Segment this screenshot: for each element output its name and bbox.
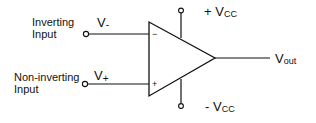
noninverting-label-line1: Non-inverting	[14, 71, 79, 83]
inverting-label-line1: Inverting	[32, 16, 74, 28]
inverting-sign: −	[152, 29, 157, 39]
positive-supply-label: + VCC	[186, 4, 248, 20]
negative-supply-label: - VCC	[187, 99, 246, 115]
negative-supply-terminal	[179, 104, 184, 109]
output-label: Vout	[275, 51, 297, 66]
noninverting-label-line2: Input	[14, 83, 38, 95]
op-amp-triangle	[149, 22, 215, 96]
inverting-label-line2: Input	[32, 28, 56, 40]
noninverting-sign: +	[152, 79, 157, 89]
inverting-input-terminal	[83, 31, 88, 36]
noninverting-input-terminal	[82, 81, 87, 86]
op-amp-diagram: − + Inverting Input V- Non-inverting Inp…	[0, 0, 316, 123]
positive-supply-terminal	[179, 8, 184, 13]
v-plus-label: V+	[94, 68, 109, 84]
v-minus-label: V-	[97, 15, 109, 30]
